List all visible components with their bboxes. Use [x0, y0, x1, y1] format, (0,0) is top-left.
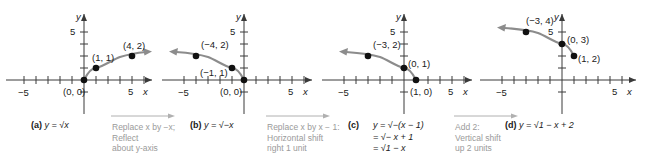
- data-point-a-0: [81, 77, 88, 84]
- curve-arrow-c: [339, 48, 348, 56]
- transformation-figure: (1, 1) (4, 2) (0, 0) −5 5 5 x y: [0, 0, 646, 168]
- x-tick-label-neg-b: −5: [178, 87, 189, 98]
- x-axis-arrow-c: [465, 77, 472, 83]
- transition-note-b-to-c-line-2: right 1 unit: [267, 143, 340, 154]
- caption-a: (a) y = √x: [31, 120, 69, 131]
- axes-c: [322, 14, 472, 114]
- point-label-d-2: (1, 2): [578, 53, 600, 64]
- transition-note-b-to-c: Replace x by x − 1: Horizontal shift rig…: [267, 122, 340, 154]
- point-label-a-1: (1, 1): [92, 52, 114, 63]
- caption-equation-c-line-1: = √− x + 1: [373, 132, 424, 144]
- graph-panel-b: (−4, 2) (−1, 1) (0, 0) −5 5 5 x y: [160, 0, 322, 120]
- graph-c-svg: (−3, 2) (0, 1) (1, 0) −5 5 5 x y: [320, 0, 482, 120]
- x-tick-label-pos-b: 5: [288, 86, 293, 97]
- transition-arrow-b-to-c: [266, 112, 330, 120]
- axes-b: [162, 14, 312, 114]
- y-axis-label-d: y: [553, 11, 560, 22]
- transition-note-c-to-d-line-0: Add 2:: [455, 122, 501, 133]
- y-axis-label-c: y: [395, 11, 402, 22]
- point-label-b-0: (−4, 2): [201, 39, 229, 50]
- point-label-a-2: (4, 2): [123, 40, 145, 51]
- x-tick-label-pos-c: 5: [448, 86, 453, 97]
- caption-tag-b: (b): [190, 120, 202, 130]
- caption-tag-d: (d): [505, 120, 517, 130]
- point-label-b-2: (0, 0): [220, 86, 242, 97]
- transition-note-a-to-b-line-2: about y-axis: [112, 143, 175, 154]
- transition-note-a-to-b-line-0: Replace x by −x;: [112, 122, 175, 133]
- transition-note-c-to-d-line-1: Vertical shift: [455, 133, 501, 144]
- y-tick-label-c: 5: [390, 26, 395, 37]
- x-tick-label-neg-a: −5: [18, 87, 29, 98]
- point-label-d-0: (−3, 4): [526, 15, 554, 26]
- data-point-b-1: [229, 65, 236, 72]
- data-point-c-2: [413, 77, 420, 84]
- x-tick-label-neg-c: −5: [338, 87, 349, 98]
- x-axis-label-a: x: [142, 86, 149, 97]
- caption-tag-c: (c): [348, 120, 359, 130]
- data-point-c-0: [365, 53, 372, 60]
- caption-equation-stack-c: y = √−(x − 1) = √− x + 1 = √1 − x: [373, 120, 424, 155]
- transition-note-a-to-b-line-1: Reflect: [112, 133, 175, 144]
- x-tick-label-pos-a: 5: [128, 86, 133, 97]
- y-axis-label-a: y: [75, 11, 82, 22]
- caption-d: (d) y = √1 − x + 2: [505, 120, 574, 131]
- y-axis-arrow-d: [559, 14, 565, 21]
- transition-note-a-to-b: Replace x by −x; Reflect about y-axis: [112, 122, 175, 154]
- x-axis-label-b: x: [302, 86, 309, 97]
- caption-equation-c-line-0: y = √−(x − 1): [373, 120, 424, 132]
- caption-row: (a) y = √x Replace x by −x; Reflect abou…: [0, 120, 646, 168]
- point-label-c-2: (1, 0): [410, 86, 432, 97]
- graph-panel-d: (−3, 4) (0, 3) (1, 2) −5 5 5 x y: [478, 0, 640, 120]
- transition-arrow-c-to-d: [454, 112, 518, 120]
- y-axis-arrow-c: [401, 14, 407, 21]
- x-axis-arrow-a: [145, 77, 152, 83]
- point-label-d-1: (0, 3): [567, 34, 589, 45]
- graph-panel-a: (1, 1) (4, 2) (0, 0) −5 5 5 x y: [0, 0, 162, 120]
- x-axis-arrow-b: [305, 77, 312, 83]
- x-tick-label-pos-d: 5: [612, 86, 617, 97]
- data-point-d-2: [571, 53, 578, 60]
- data-point-d-1: [559, 41, 566, 48]
- transition-note-b-to-c-line-1: Horizontal shift: [267, 133, 340, 144]
- data-point-a-2: [129, 53, 136, 60]
- y-axis-arrow-a: [81, 14, 87, 21]
- x-axis-label-c: x: [462, 86, 469, 97]
- transition-note-b-to-c-line-0: Replace x by x − 1:: [267, 122, 340, 133]
- graph-panel-c: (−3, 2) (0, 1) (1, 0) −5 5 5 x y: [320, 0, 482, 120]
- data-point-b-2: [241, 77, 248, 84]
- point-label-a-0: (0, 0): [63, 86, 85, 97]
- y-tick-label-d: 5: [548, 26, 553, 37]
- y-tick-label-a: 5: [70, 26, 75, 37]
- caption-equation-a: y = √x: [45, 120, 69, 130]
- x-tick-label-neg-d: −5: [496, 87, 507, 98]
- graph-a-svg: (1, 1) (4, 2) (0, 0) −5 5 5 x y: [0, 0, 162, 120]
- data-point-a-1: [93, 65, 100, 72]
- y-axis-arrow-b: [241, 14, 247, 21]
- transition-note-c-to-d: Add 2: Vertical shift up 2 units: [455, 122, 501, 154]
- point-label-c-0: (−3, 2): [373, 39, 401, 50]
- curve-arrow-d: [497, 24, 506, 32]
- transition-note-c-to-d-line-2: up 2 units: [455, 143, 501, 154]
- y-axis-label-b: y: [235, 11, 242, 22]
- graph-b-svg: (−4, 2) (−1, 1) (0, 0) −5 5 5 x y: [160, 0, 322, 120]
- caption-c: (c) y = √−(x − 1) = √− x + 1 = √1 − x: [348, 120, 359, 131]
- x-axis-label-d: x: [626, 86, 633, 97]
- caption-equation-d: y = √1 − x + 2: [519, 120, 574, 130]
- point-label-c-1: (0, 1): [408, 58, 430, 69]
- graph-d-svg: (−3, 4) (0, 3) (1, 2) −5 5 5 x y: [478, 0, 646, 120]
- curve-arrow-b: [169, 48, 178, 56]
- caption-b: (b) y = √−x: [190, 120, 233, 131]
- data-point-c-1: [401, 65, 408, 72]
- point-label-b-1: (−1, 1): [200, 67, 228, 78]
- data-point-b-0: [193, 53, 200, 60]
- x-axis-arrow-d: [629, 77, 636, 83]
- data-point-d-0: [523, 29, 530, 36]
- y-tick-label-b: 5: [230, 26, 235, 37]
- caption-tag-a: (a): [31, 120, 42, 130]
- axes-a: [6, 14, 152, 114]
- caption-equation-b: y = √−x: [204, 120, 233, 130]
- transition-arrow-a-to-b: [111, 112, 175, 120]
- caption-equation-c-line-2: = √1 − x: [373, 143, 424, 155]
